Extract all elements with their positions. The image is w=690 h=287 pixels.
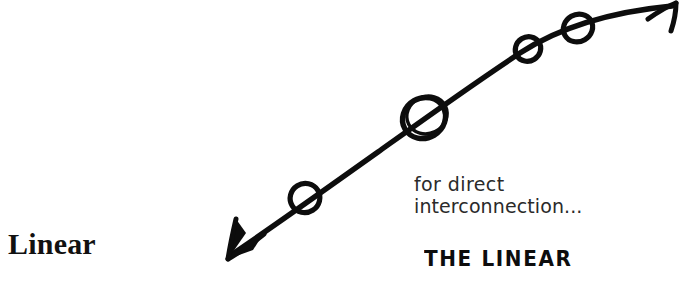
diagram-canvas <box>0 0 690 287</box>
lower-left-arrowhead <box>228 219 264 259</box>
linear-topology-figure: Linear for direct interconnection... THE… <box>0 0 690 287</box>
handwritten-caption: THE LINEAR <box>424 246 572 271</box>
handwritten-note-line-1: for direct <box>414 172 690 195</box>
page-title: Linear <box>8 228 96 260</box>
handwritten-note: for direct interconnection... <box>414 172 690 216</box>
handwritten-note-line-2: interconnection... <box>414 194 690 217</box>
backbone-line <box>231 6 672 255</box>
